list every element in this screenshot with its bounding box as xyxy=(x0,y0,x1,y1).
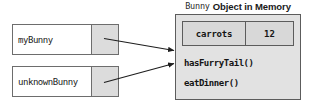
object-field-row: carrots 12 xyxy=(182,21,294,46)
reference-cell-unknown-bunny xyxy=(91,67,118,96)
variable-box-unknown-bunny: unknownBunny xyxy=(12,66,119,97)
variable-box-my-bunny: myBunny xyxy=(12,24,119,55)
object-reference-diagram: Bunny Object in Memory myBunny unknownBu… xyxy=(0,0,315,106)
object-field-key: carrots xyxy=(183,22,245,45)
diagram-title-class-name: Bunny xyxy=(185,1,210,11)
object-method-eat-dinner: eatDinner() xyxy=(184,78,239,88)
object-field-value: 12 xyxy=(245,22,293,45)
bunny-object-box: carrots 12 hasFurryTail() eatDinner() xyxy=(175,14,301,100)
diagram-title: Bunny Object in Memory xyxy=(175,0,301,13)
reference-cell-my-bunny xyxy=(91,25,118,54)
object-method-has-furry-tail: hasFurryTail() xyxy=(184,58,254,68)
variable-name-label: myBunny xyxy=(13,25,91,54)
variable-name-label: unknownBunny xyxy=(13,67,91,96)
diagram-title-suffix: Object in Memory xyxy=(213,1,291,12)
